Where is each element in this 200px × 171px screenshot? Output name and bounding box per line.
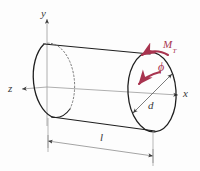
left-face-visible-arc-lower	[52, 109, 70, 117]
twist-arrow-curve	[139, 72, 160, 84]
diameter-label: d	[148, 100, 154, 111]
twist-angle-label: ϕ	[158, 61, 164, 73]
torque-moment-symbol: M	[163, 38, 172, 50]
cylinder-solid	[33, 43, 179, 133]
torque-moment-label: MT	[163, 39, 176, 53]
y-axis-label: y	[41, 8, 46, 19]
z-axis-label: z	[8, 83, 12, 94]
length-label: l	[100, 132, 103, 143]
cylinder-top-edge	[44, 44, 150, 54]
torsion-shaft-figure: y x z MT ϕ d l	[0, 0, 200, 171]
left-face-hidden-arc	[44, 43, 75, 109]
figure-canvas	[0, 0, 200, 171]
length-dimension-line	[48, 141, 153, 156]
x-axis-label: x	[183, 88, 188, 99]
torque-moment-subscript: T	[172, 47, 176, 55]
left-face-visible-arc	[33, 44, 52, 117]
twist-arrow-group	[139, 72, 160, 84]
coordinate-axes	[22, 19, 178, 126]
